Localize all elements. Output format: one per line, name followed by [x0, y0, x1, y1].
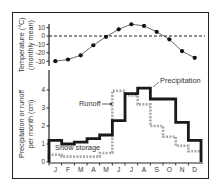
month-label: J [130, 166, 133, 173]
temp-ytick-label: -10 [36, 41, 46, 48]
temp-ytick-label: 0 [41, 32, 45, 39]
temp-marker [155, 30, 159, 34]
precip-ytick-label: 3 [41, 104, 45, 111]
month-label: A [142, 166, 147, 173]
precip-ytick-label: 1 [41, 140, 45, 147]
month-label: M [78, 166, 84, 173]
temperature-ylabel-line2: (monthly mean) [26, 20, 35, 70]
precip-ytick-label: 0 [41, 158, 45, 165]
precip-ylabel-line1: Precipitation or runoff [17, 90, 26, 158]
temp-marker [66, 57, 70, 61]
temp-marker [79, 53, 83, 57]
month-label: A [91, 166, 96, 173]
month-label: D [192, 166, 197, 173]
temp-marker [142, 24, 146, 28]
month-label: O [167, 166, 172, 173]
annotation-snow-storage: Snow storage [55, 143, 100, 152]
month-label: N [180, 166, 185, 173]
month-label: J [54, 166, 57, 173]
precip-ytick-label: 4 [41, 86, 45, 93]
month-label: M [103, 166, 109, 173]
temp-marker [129, 22, 133, 26]
temperature-ylabel-line1: Temperature (°C) [17, 17, 26, 72]
annotation-runoff: Runoff [79, 99, 102, 108]
month-label: S [154, 166, 159, 173]
month-label: F [66, 166, 70, 173]
temp-marker [91, 43, 95, 47]
month-label: J [117, 166, 120, 173]
precip-ytick-label: 2 [41, 122, 45, 129]
temp-marker [167, 37, 171, 41]
precip-ylabel-line2: per month (cm) [26, 100, 35, 149]
annotation-precipitation: Precipitation [160, 76, 201, 85]
temp-marker [53, 59, 57, 63]
temp-marker [180, 49, 184, 53]
temp-marker [117, 27, 121, 31]
temp-ytick-label: -30 [36, 58, 46, 65]
temp-marker [193, 56, 197, 60]
hydrograph-figure: Temperature (°C) (monthly mean) 100-10-2… [0, 0, 219, 188]
temp-ytick-label: 10 [38, 24, 46, 31]
temp-ytick-label: -20 [36, 49, 46, 56]
temp-marker [104, 35, 108, 39]
